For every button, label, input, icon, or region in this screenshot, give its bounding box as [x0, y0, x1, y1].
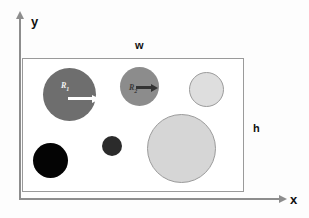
- particle-circle-5: [102, 136, 122, 156]
- particle-circle-6: [147, 114, 216, 183]
- x-axis-label: x: [290, 193, 297, 206]
- particle-circle-4: [33, 143, 68, 178]
- particle-circle-1: [43, 68, 96, 121]
- arrow-right-icon: [279, 195, 287, 203]
- radius-label-1-subscript: 1: [66, 86, 69, 92]
- y-axis-line: [19, 18, 21, 200]
- arrow-right-icon: [92, 95, 100, 103]
- x-axis-line: [19, 198, 281, 200]
- y-axis-label: y: [31, 15, 38, 28]
- velocity-arrow-2-shaft: [136, 86, 152, 89]
- diagram-canvas: y x w h R1 R2: [0, 0, 309, 218]
- radius-label-1: R1: [61, 82, 69, 92]
- domain-width-label: w: [135, 40, 144, 51]
- particle-circle-3: [189, 72, 224, 107]
- velocity-arrow-1-shaft: [68, 97, 93, 100]
- domain-height-label: h: [253, 123, 260, 134]
- arrow-right-icon: [151, 84, 158, 92]
- arrow-up-icon: [16, 11, 24, 19]
